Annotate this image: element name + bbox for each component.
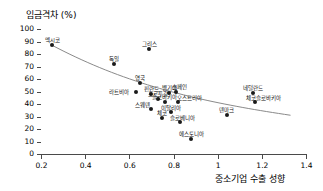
data-point-label: 체코 [157,111,167,117]
x-tick: 1 [218,155,219,159]
data-point-label: 슬로베니아 [170,116,195,122]
data-point-label: 스웨덴 [135,103,150,109]
x-tick-label: 0.8 [168,161,180,170]
x-tick-label: 0.2 [36,161,48,170]
data-point-label: 체코슬로바키아 [246,96,281,102]
data-point-label: 그리스 [142,42,157,48]
data-point-label: 영국 [135,76,145,82]
data-point-label: 네덜란드 [243,86,263,92]
y-tick-label: 30 [24,112,34,121]
data-point-label: 에스토니아 [179,132,204,138]
data-point-label: 라트비아 [109,90,129,96]
x-tick: 1.4 [306,155,307,159]
data-point[interactable] [163,100,167,104]
y-tick-label: 20 [24,124,34,133]
data-point-label: 멕시코 [45,38,60,44]
data-point-label: 덴마크 [219,108,234,114]
x-tick-label: 1.4 [301,161,313,170]
y-tick-label: 10 [24,137,34,146]
y-tick-label: 90 [24,37,34,46]
plot-area: 멕시코독일그리스영국라트비아핀란드포르투갈벨기에스페인슬로바키아오스트리아스웨덴… [41,29,306,154]
y-tick-label: 0 [29,149,34,158]
x-tick: 0.6 [129,155,130,159]
x-tick: 0.8 [174,155,175,159]
data-point[interactable] [225,113,229,117]
x-tick-label: 0.4 [80,161,92,170]
scatter-chart: 임금격차 (%) 0102030405060708090100 0.20.40.… [0,0,323,191]
x-tick: 1.2 [262,155,263,159]
data-point[interactable] [134,90,138,94]
data-point-label: 슬로바키아 [152,95,177,101]
y-tick-label: 40 [24,99,34,108]
y-tick-label: 80 [24,49,34,58]
x-tick: 0.4 [85,155,86,159]
data-point-label: 스페인 [172,85,187,91]
x-tick-label: 0.6 [124,161,136,170]
y-tick-label: 70 [24,62,34,71]
y-axis-title: 임금격차 (%) [26,8,76,21]
x-axis-title: 중소기업 수출 성향 [215,172,285,185]
y-tick-label: 50 [24,87,34,96]
data-point-label: 독일 [109,57,119,63]
data-point[interactable] [112,62,116,66]
x-tick: 0.2 [41,155,42,159]
y-tick-label: 100 [20,24,34,33]
x-tick-label: 1 [216,161,221,170]
x-tick-label: 1.2 [256,161,268,170]
y-tick-label: 60 [24,74,34,83]
data-point-label: 오스트리아 [177,96,202,102]
